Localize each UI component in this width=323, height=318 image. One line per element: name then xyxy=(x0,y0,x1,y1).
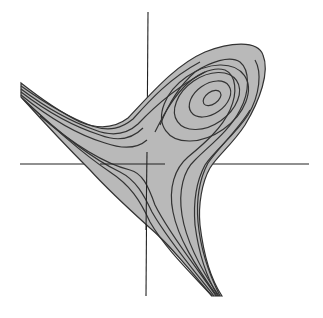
filled-region xyxy=(21,44,265,296)
contour-diagram: Contour plot of a scalar field with a sa… xyxy=(0,0,323,318)
contour-plot xyxy=(0,0,323,318)
